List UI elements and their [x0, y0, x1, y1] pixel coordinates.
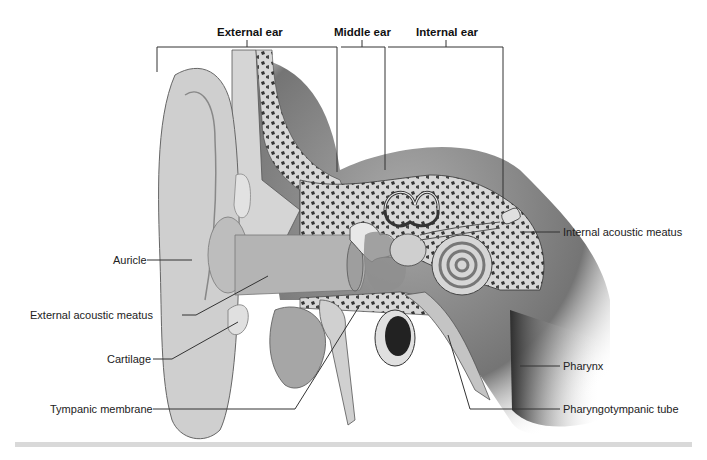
- label-pharynx: Pharynx: [563, 360, 603, 372]
- header-external-ear: External ear: [217, 26, 283, 38]
- ear-diagram: External ear Middle ear Internal ear Aur…: [0, 0, 707, 460]
- bottom-divider: [15, 442, 692, 447]
- label-auricle: Auricle: [113, 254, 147, 266]
- mastoid-process: [270, 307, 326, 388]
- label-internal-acoustic-meatus: Internal acoustic meatus: [563, 226, 682, 238]
- header-middle-ear: Middle ear: [334, 26, 391, 38]
- label-tympanic-membrane: Tympanic membrane: [50, 403, 153, 415]
- label-pharyngotympanic-tube: Pharyngotympanic tube: [563, 403, 679, 415]
- label-cartilage: Cartilage: [107, 353, 151, 365]
- label-external-acoustic-meatus: External acoustic meatus: [30, 309, 153, 321]
- cochlea: [432, 235, 492, 295]
- header-internal-ear: Internal ear: [416, 26, 478, 38]
- styloid-process: [319, 300, 355, 425]
- cartilage-shape: [228, 305, 248, 335]
- cartilage-upper: [234, 174, 250, 218]
- ear-canal: [235, 235, 365, 295]
- vestibule: [390, 234, 426, 266]
- carotid-canal: [375, 310, 415, 366]
